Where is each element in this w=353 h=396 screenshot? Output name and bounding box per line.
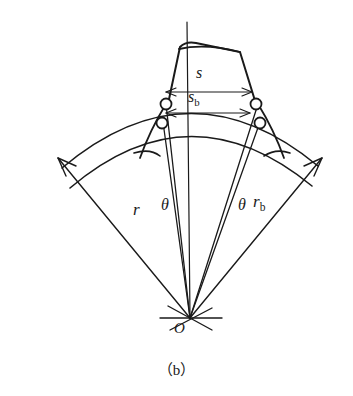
label-arc-length-s: s <box>196 64 202 82</box>
label-center-point-o: O <box>174 320 185 337</box>
tooth-profile-outline <box>168 43 256 105</box>
label-radius-r: r <box>133 200 140 220</box>
right-flank-tip <box>264 151 290 156</box>
node-upper-left <box>161 99 172 110</box>
right-flank-curve <box>258 104 284 158</box>
left-flank-tip <box>134 151 160 156</box>
outer-arc-s <box>62 113 318 168</box>
node-upper-right <box>251 99 262 110</box>
left-outer-ray <box>58 158 190 318</box>
figure-caption: （b） <box>0 358 353 379</box>
left-flank-curve <box>140 104 166 158</box>
left-inner-ray-2 <box>163 122 190 318</box>
label-radius-r-b: rb <box>253 192 265 214</box>
tooth-top-edge <box>179 47 240 52</box>
label-arc-length-s-b: sb <box>188 88 200 108</box>
label-angle-theta-right: θ <box>238 196 246 214</box>
label-angle-theta-left: θ <box>161 196 169 214</box>
label-r-base: r <box>253 192 260 211</box>
label-s-subscript: b <box>194 96 199 108</box>
label-r-subscript: b <box>260 201 266 214</box>
axis-of-symmetry-line <box>187 22 190 318</box>
inner-arc-sb <box>70 136 312 188</box>
node-lower-left <box>157 118 168 129</box>
figure-root: s sb r rb θ θ O （b） <box>0 0 353 396</box>
right-inner-ray-2 <box>190 122 260 318</box>
node-lower-right <box>255 118 266 129</box>
right-outer-ray <box>190 158 322 318</box>
